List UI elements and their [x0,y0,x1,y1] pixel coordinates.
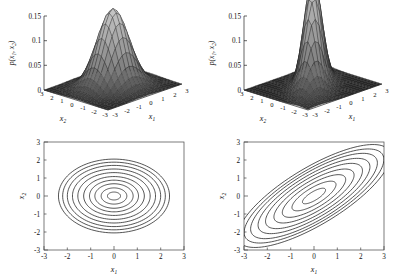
contour-ring-4 [266,163,363,228]
contour-uncorrelated-xlabel: x1 [110,265,118,275]
ytick-6: -3 [102,111,108,118]
surface-correlated-zlabel: p(x1, x2) [207,40,217,66]
ztick-2: 0.1 [32,37,41,45]
xtick-2: -1 [336,103,342,110]
ytick-0: 3 [236,139,240,147]
contour-correlated-xticklabels: -3 -2 -1 0 1 2 3 [241,253,386,261]
contour-uncorrelated-lines [58,159,169,233]
contour-ring-7 [67,165,160,226]
xtick-6: 3 [385,87,389,94]
contour-correlated-ylabel: x2 [217,193,227,201]
xtick-1: -2 [324,107,330,114]
surface-uncorrelated-zlabel: p(x1, x2) [7,40,17,66]
ytick-1: 2 [36,157,40,165]
surface-correlated-xlabel: x1 [348,112,356,122]
contour-ring-0 [302,188,325,204]
ytick-1: 2 [250,94,253,101]
panel-contour-correlated: -3 -2 -1 0 1 2 3 3 2 1 0 -1 -2 -3 x1 [200,138,402,278]
xtick-1: -2 [124,107,130,114]
xtick-3: 0 [312,253,316,261]
contour-uncorrelated-yticklabels: 3 2 1 0 -1 -2 -3 [34,139,40,255]
contour-uncorrelated-ylabel: x2 [17,193,27,201]
ztick-2: 0.1 [232,37,241,45]
contour-ring-5 [258,158,370,233]
contour-ring-4 [84,177,145,216]
surface-correlated-svg: 0.15 0.1 0.05 0 p(x1, x2) 3 2 1 0 -1 [200,0,402,140]
contour-correlated-lines [238,145,391,248]
figure-bivariate-gaussian-panels: 0.15 0.1 0.05 0 p(x1, x2) 3 2 1 [0,0,404,280]
xtick-4: 1 [361,95,364,102]
ytick-1: 2 [50,94,53,101]
contour-ring-5 [78,173,150,220]
ztick-1: 0.05 [228,62,241,70]
ztick-3: 0.15 [228,13,241,21]
contour-uncorrelated-tickmarks [44,142,184,250]
svg-text:p(x1, x2): p(x1, x2) [7,40,17,66]
panel-contour-uncorrelated: -3 -2 -1 0 1 2 3 3 2 1 0 -1 -2 -3 x1 [0,138,202,278]
ytick-3: 0 [36,193,40,201]
contour-ring-1 [292,181,336,211]
ytick-5: -2 [91,108,97,115]
ytick-5: -2 [234,229,240,237]
xtick-5: 2 [159,253,163,261]
surface-uncorrelated-zaxis: 0.15 0.1 0.05 0 [28,13,47,95]
xtick-5: 2 [373,91,376,98]
ztick-1: 0.05 [28,62,41,70]
xtick-4: 1 [136,253,140,261]
contour-correlated-svg: -3 -2 -1 0 1 2 3 3 2 1 0 -1 -2 -3 x1 [200,138,402,280]
svg-text:x2: x2 [217,193,227,201]
xtick-3: 0 [349,99,353,106]
panel-surface-uncorrelated: 0.15 0.1 0.05 0 p(x1, x2) 3 2 1 [0,0,202,140]
ytick-0: 3 [40,90,44,97]
svg-text:p(x1, x2): p(x1, x2) [207,40,217,66]
ytick-2: 1 [60,97,63,104]
contour-uncorrelated-xticklabels: -3 -2 -1 0 1 2 3 [41,253,186,261]
xtick-0: -3 [312,111,318,118]
xtick-5: 2 [359,253,363,261]
zlabel-p: p(x [7,55,16,66]
surface-uncorrelated-ylabel: x2 [59,114,67,124]
surface-correlated-mesh [244,0,382,109]
surface-uncorrelated-svg: 0.15 0.1 0.05 0 p(x1, x2) 3 2 1 [0,0,202,140]
zlabel-p: p(x [207,55,216,66]
contour-ring-6 [72,169,155,223]
xtick-1: -2 [264,253,270,261]
ytick-4: -1 [80,104,86,111]
xtick-5: 2 [173,91,176,98]
contour-ring-8 [238,145,391,248]
contour-ring-2 [282,175,345,218]
ytick-3: 0 [270,101,274,108]
ytick-1: 2 [236,157,240,165]
ytick-6: -3 [34,247,40,255]
ytick-3: 0 [70,101,74,108]
ytick-4: -1 [34,211,40,219]
xtick-3: 0 [112,253,116,261]
xtick-6: 3 [382,253,386,261]
xtick-2: -1 [88,253,94,261]
contour-ring-9 [58,159,169,233]
xtick-3: 0 [149,99,153,106]
ztick-3: 0.15 [28,13,41,21]
contour-uncorrelated-svg: -3 -2 -1 0 1 2 3 3 2 1 0 -1 -2 -3 x1 [0,138,202,280]
xtick-0: -3 [112,111,118,118]
xtick-2: -1 [288,253,294,261]
ytick-4: -1 [280,104,286,111]
contour-ring-2 [95,184,133,208]
surface-uncorrelated-xlabel: x1 [148,112,156,122]
panel-surface-correlated: 0.15 0.1 0.05 0 p(x1, x2) 3 2 1 0 -1 [200,0,402,140]
ytick-2: 1 [236,175,240,183]
contour-ring-3 [274,169,354,223]
xtick-0: -3 [241,253,247,261]
xtick-0: -3 [41,253,47,261]
ytick-0: 3 [36,139,40,147]
xtick-4: 1 [161,95,164,102]
ytick-6: -3 [234,247,240,255]
xtick-1: -2 [64,253,70,261]
ytick-4: -1 [234,211,240,219]
xtick-4: 1 [336,253,340,261]
ytick-2: 1 [260,97,263,104]
xtick-2: -1 [136,103,142,110]
zlabel-end: ) [207,40,216,44]
surface-correlated-zaxis: 0.15 0.1 0.05 0 [228,13,247,95]
ytick-6: -3 [302,111,308,118]
